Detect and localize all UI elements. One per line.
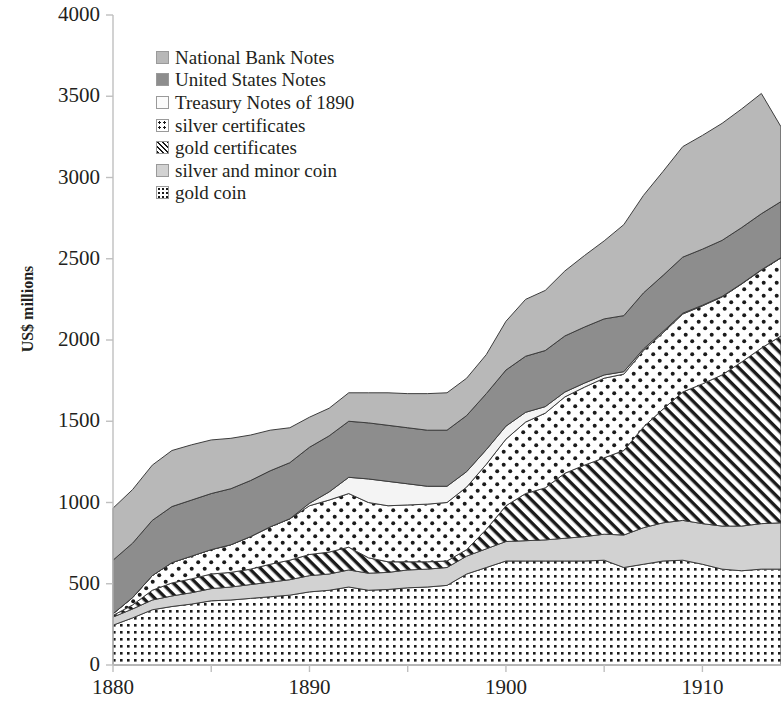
x-axis-tick-label: 1900 [461,677,551,698]
legend-swatch-dark-gray-solid-icon [156,73,169,86]
legend-item-label: United States Notes [175,70,326,89]
x-axis-tick-label: 1910 [657,677,747,698]
y-axis-tick-label: 1000 [24,492,100,513]
legend-item-label: silver certificates [175,116,305,135]
legend-item-united-states-notes[interactable]: United States Notes [156,69,426,92]
y-axis-tick-label: 0 [24,654,100,675]
legend-item-label: Treasury Notes of 1890 [175,93,354,112]
legend-item-label: gold certificates [175,138,297,157]
y-axis-tick-label: 3500 [24,85,100,106]
legend-swatch-white-outline-icon [156,96,169,109]
legend-swatch-dense-dot-icon [156,186,169,199]
legend-item-national-bank-notes[interactable]: National Bank Notes [156,46,426,69]
chart-legend: National Bank NotesUnited States NotesTr… [156,46,426,204]
y-axis-tick-label: 1500 [24,410,100,431]
y-axis-tick-label: 4000 [24,4,100,25]
legend-item-silver-and-minor-coin[interactable]: silver and minor coin [156,159,426,182]
legend-item-gold-coin[interactable]: gold coin [156,182,426,205]
legend-swatch-light-gray-solid-icon [156,164,169,177]
x-axis-tick-label: 1890 [264,677,354,698]
legend-swatch-medium-gray-solid-icon [156,51,169,64]
chart-container: US$ millions 050010001500200025003000350… [0,0,781,703]
y-axis-tick-label: 3000 [24,167,100,188]
legend-swatch-diagonal-hatch-icon [156,141,169,154]
x-axis-tick-label: 1880 [68,677,158,698]
y-axis-tick-label: 2000 [24,329,100,350]
legend-item-gold-certificates[interactable]: gold certificates [156,136,426,159]
legend-item-silver-certificates[interactable]: silver certificates [156,114,426,137]
legend-swatch-sparse-dot-icon [156,119,169,132]
legend-item-treasury-notes-of-1890[interactable]: Treasury Notes of 1890 [156,91,426,114]
legend-item-label: National Bank Notes [175,48,334,67]
legend-item-label: silver and minor coin [175,161,337,180]
legend-item-label: gold coin [175,183,246,202]
y-axis-tick-label: 2500 [24,248,100,269]
y-axis-tick-label: 500 [24,573,100,594]
